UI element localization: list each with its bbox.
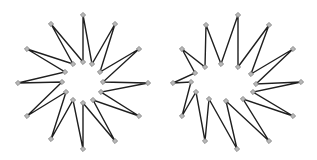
vertex-marker-diamond-icon bbox=[145, 80, 150, 85]
vertex-marker-diamond-icon bbox=[170, 80, 175, 85]
vertex-marker-diamond-icon bbox=[188, 79, 193, 84]
vertex-marker-diamond-icon bbox=[235, 12, 240, 17]
vertex-marker-diamond-icon bbox=[15, 80, 20, 85]
vertex-marker-diamond-icon bbox=[80, 146, 85, 151]
diagram-canvas bbox=[0, 0, 317, 160]
vertex-marker-diamond-icon bbox=[203, 22, 208, 27]
vertex-marker-diamond-icon bbox=[202, 138, 207, 143]
vertex-marker-diamond-icon bbox=[192, 70, 197, 75]
vertex-marker-diamond-icon bbox=[80, 12, 85, 17]
vertex-marker-diamond-icon bbox=[90, 97, 95, 102]
vertex-marker-diamond-icon bbox=[298, 79, 303, 84]
vertex-marker-diamond-icon bbox=[218, 61, 223, 66]
regular-star-outline bbox=[18, 15, 148, 149]
distorted-star-shape bbox=[170, 12, 303, 151]
regular-star-shape bbox=[15, 12, 150, 151]
vertex-marker-diamond-icon bbox=[70, 61, 75, 66]
